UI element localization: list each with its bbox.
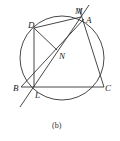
label-D: D [27,20,35,30]
label-C: C [105,83,112,93]
label-A: A [85,15,92,25]
label-M: M [74,6,83,16]
segment-DM [34,17,81,28]
segment-DN [34,28,57,50]
label-L: L [34,90,40,100]
label-N: N [58,51,66,61]
label-B: B [13,83,19,93]
geometry-diagram: M A D N B L C (b) [0,0,120,141]
caption: (b) [52,121,62,130]
